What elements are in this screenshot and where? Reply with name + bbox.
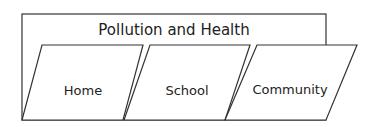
label-home: Home [64, 83, 102, 98]
diagram-title: Pollution and Health [98, 21, 249, 39]
label-school: School [165, 83, 208, 98]
diagram: Pollution and Health Home School Communi… [0, 0, 373, 127]
label-community: Community [252, 82, 328, 97]
